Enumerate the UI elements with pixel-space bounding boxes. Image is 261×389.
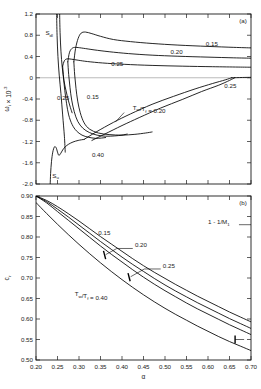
panel-b-ylabel: cr	[3, 275, 12, 280]
panel-a-ylabel: ωi × 10-3	[3, 86, 12, 111]
panel-a-curves	[50, 14, 251, 184]
panel-a-ytick-label: 0	[30, 74, 34, 81]
ratio-040-label: Tw/Tf = 0.40	[75, 290, 108, 300]
panel-b-ytick-label: 0.90	[21, 192, 34, 199]
panel-b-ytick-label: 0.80	[21, 233, 34, 240]
panel-a-ytick-label: -1.6	[22, 159, 33, 166]
panel-b-xtick-label: 0.35	[94, 363, 107, 370]
panel-b-xtick-label: 0.50	[159, 363, 172, 370]
curve-020-label: 0.20	[135, 241, 148, 248]
curve-upper-branch-0.25	[63, 59, 251, 67]
left-025-label: 0.25	[57, 94, 70, 101]
curve-c-r-curve-0.20	[36, 196, 251, 328]
panel-b-xtick-label: 0.25	[51, 363, 64, 370]
curve-upper-branch-0.20	[68, 47, 251, 61]
panel-b-xtick-label: 0.20	[30, 363, 43, 370]
upper-020-label: 0.20	[171, 48, 184, 55]
curve-025-label: 0.25	[163, 262, 176, 269]
panel-b: 0.500.550.600.650.700.750.800.850.900.20…	[3, 192, 258, 380]
panel-a-ytick-label: -2.0	[22, 180, 33, 187]
mid-015-label: 0.15	[87, 93, 100, 100]
lower-040-label: 0.40	[92, 151, 105, 158]
figure-svg: -2.0-1.6-1.2-0.8-0.400.40.81.2(a)SdlSu0.…	[0, 0, 261, 389]
limit-label: 1 - 1/M1	[208, 218, 230, 227]
panel-a-ytick-label: 0.4	[24, 53, 33, 60]
tickmark-025-b	[128, 273, 130, 281]
curve-c-r-curve-0.15	[36, 196, 251, 322]
panel-b-xtick-label: 0.70	[245, 363, 258, 370]
panel-a-ytick-label: -1.2	[22, 138, 33, 145]
panel-a-ytick-label: 1.2	[24, 10, 33, 17]
panel-b-ytick-label: 0.70	[21, 274, 34, 281]
panel-b-xtick-label: 0.30	[73, 363, 86, 370]
tickmark-020-b	[104, 251, 106, 259]
s-dl-label: Sdl	[45, 29, 53, 38]
figure-container: -2.0-1.6-1.2-0.8-0.400.40.81.2(a)SdlSu0.…	[0, 0, 261, 389]
right-025-label: 0.25	[224, 82, 237, 89]
panel-b-ytick-label: 0.60	[21, 315, 34, 322]
panel-b-ytick-label: 0.65	[21, 295, 34, 302]
panel-b-xtick-label: 0.60	[202, 363, 215, 370]
panel-a-ytick-label: -0.4	[22, 95, 33, 102]
panel-a: -2.0-1.6-1.2-0.8-0.400.40.81.2(a)SdlSu0.…	[3, 10, 251, 187]
panel-b-ytick-label: 0.85	[21, 213, 34, 220]
panel-a-ytick-label: -0.8	[22, 116, 33, 123]
curve-015-label: 0.15	[98, 229, 111, 236]
panel-a-label: (a)	[239, 17, 247, 24]
curve-descending-branch-0.15	[74, 62, 152, 135]
s-u-label: Su	[52, 172, 59, 181]
panel-b-xtick-label: 0.65	[223, 363, 236, 370]
upper-025-label: 0.25	[111, 60, 124, 67]
upper-015-label: 0.15	[206, 40, 219, 47]
panel-a-ytick-label: 0.8	[24, 31, 33, 38]
panel-a-annotations: (a)SdlSu0.150.200.250.250.150.40Tw/Tf = …	[45, 17, 246, 180]
panel-b-xtick-label: 0.40	[116, 363, 129, 370]
panel-b-ytick-label: 0.55	[21, 336, 34, 343]
panel-b-xtick-label: 0.55	[180, 363, 193, 370]
panel-b-xlabel: α	[142, 373, 146, 380]
panel-b-ytick-label: 0.75	[21, 254, 34, 261]
panel-b-xtick-label: 0.45	[137, 363, 150, 370]
panel-b-label: (b)	[239, 199, 247, 206]
